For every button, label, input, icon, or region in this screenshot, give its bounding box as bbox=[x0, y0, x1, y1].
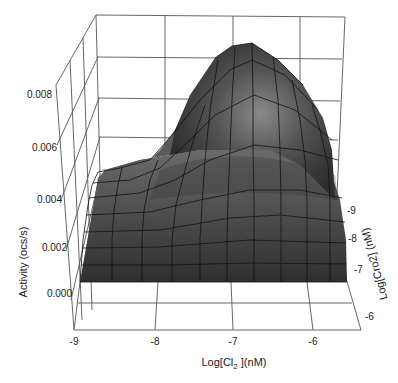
z-tick: 0.002 bbox=[42, 242, 67, 253]
y-axis-label: Log[Cro2] (nM) bbox=[359, 227, 390, 302]
z-tick: 0.000 bbox=[47, 288, 72, 299]
y-tick: -6 bbox=[365, 311, 374, 322]
surface-plot: 0.008 0.006 0.004 0.002 0.000 Activity (… bbox=[0, 0, 398, 383]
surface bbox=[80, 43, 347, 282]
y-tick: -8 bbox=[348, 233, 357, 244]
y-tick: -7 bbox=[354, 264, 363, 275]
x-tick: -7 bbox=[229, 336, 238, 347]
x-tick: -8 bbox=[151, 336, 160, 347]
x-axis-label: Log[Cl2 ](nM) bbox=[202, 356, 267, 371]
x-axis: -9 -8 -7 -6 Log[Cl2 ](nM) bbox=[70, 336, 318, 371]
x-tick: -9 bbox=[70, 336, 79, 347]
z-axis-label: Activity (ocs/s) bbox=[17, 227, 29, 298]
y-tick: -9 bbox=[347, 205, 356, 216]
z-tick: 0.008 bbox=[27, 89, 52, 100]
z-tick: 0.004 bbox=[37, 194, 62, 205]
z-tick: 0.006 bbox=[32, 142, 57, 153]
x-tick: -6 bbox=[309, 336, 318, 347]
